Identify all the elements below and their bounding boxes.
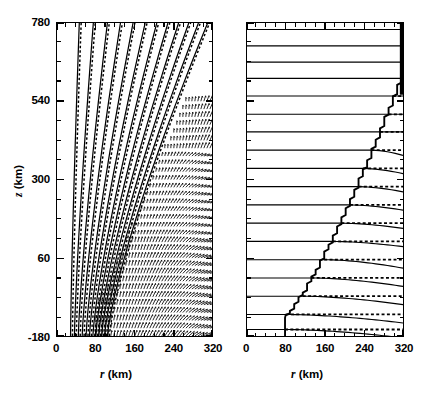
- left-x-tick-label: 320: [195, 342, 231, 355]
- left-x-minor-tick: [65, 333, 66, 337]
- left-y-minor-tick: [57, 317, 61, 318]
- right-x-major-tick-top: [285, 23, 287, 30]
- right-x-minor-tick-top: [255, 23, 256, 27]
- right-x-minor-tick-top: [315, 23, 316, 27]
- left-y-minor-tick-right: [209, 277, 213, 278]
- left-x-minor-tick: [163, 333, 164, 337]
- right-x-minor-tick-top: [265, 23, 266, 27]
- left-x-major-tick-top: [134, 23, 136, 30]
- left-x-minor-tick-top: [75, 23, 76, 27]
- right-y-minor-tick-right: [400, 120, 404, 121]
- contour-lines: [71, 23, 210, 336]
- left-y-major-tick: [57, 23, 64, 25]
- right-x-minor-tick: [334, 333, 335, 337]
- y-tick-label: 780: [12, 16, 50, 29]
- right-x-minor-tick: [265, 333, 266, 337]
- right-x-minor-tick-top: [384, 23, 385, 27]
- right-y-minor-tick: [247, 159, 251, 160]
- contour-solid: [247, 314, 403, 322]
- right-y-minor-tick-right: [400, 317, 404, 318]
- right-y-major-tick: [247, 23, 254, 25]
- contour-solid: [247, 296, 403, 304]
- right-x-minor-tick-top: [374, 23, 375, 27]
- right-y-minor-tick: [247, 297, 251, 298]
- right-y-minor-tick: [247, 120, 251, 121]
- left-y-minor-tick-right: [209, 159, 213, 160]
- right-x-minor-tick: [374, 333, 375, 337]
- left-x-major-tick: [173, 330, 175, 337]
- left-panel: [56, 22, 213, 337]
- right-x-tick-label: 320: [386, 342, 422, 355]
- right-y-minor-tick-right: [400, 297, 404, 298]
- right-panel-plot: [247, 23, 403, 336]
- right-x-tick-label: 0: [228, 342, 264, 355]
- left-x-minor-tick: [193, 333, 194, 337]
- left-x-major-tick: [134, 330, 136, 337]
- contour-solid: [247, 260, 403, 268]
- left-y-major-tick-right: [206, 179, 213, 181]
- left-y-minor-tick: [57, 277, 61, 278]
- x-axis-title-right: r (km): [291, 368, 323, 380]
- left-x-tick-label: 0: [38, 342, 74, 355]
- left-x-tick-label: 240: [156, 342, 192, 355]
- right-y-major-tick-right: [397, 258, 404, 260]
- left-y-minor-tick: [57, 41, 61, 42]
- left-y-major-tick: [57, 100, 64, 102]
- right-y-minor-tick-right: [400, 277, 404, 278]
- left-x-tick-label: 160: [117, 342, 153, 355]
- right-y-major-tick-right: [397, 335, 404, 337]
- x-axis-right-symbol: r: [291, 368, 295, 380]
- right-y-minor-tick-right: [400, 238, 404, 239]
- left-y-minor-tick-right: [209, 61, 213, 62]
- left-x-major-tick: [95, 330, 97, 337]
- right-x-minor-tick-top: [354, 23, 355, 27]
- right-y-major-tick-right: [397, 23, 404, 25]
- left-x-minor-tick-top: [183, 23, 184, 27]
- right-x-major-tick: [364, 330, 366, 337]
- right-y-major-tick-right: [397, 179, 404, 181]
- left-y-major-tick-right: [206, 335, 213, 337]
- left-x-minor-tick: [124, 333, 125, 337]
- left-y-minor-tick: [57, 199, 61, 200]
- left-panel-plot: [57, 23, 212, 336]
- left-x-minor-tick-top: [114, 23, 115, 27]
- left-y-major-tick-right: [206, 258, 213, 260]
- left-y-minor-tick: [57, 159, 61, 160]
- right-y-minor-tick: [247, 238, 251, 239]
- right-x-minor-tick: [255, 333, 256, 337]
- left-y-minor-tick-right: [209, 41, 213, 42]
- left-x-minor-tick: [203, 333, 204, 337]
- right-panel: [246, 22, 404, 337]
- left-y-minor-tick: [57, 238, 61, 239]
- y-axis-symbol: z: [12, 193, 24, 197]
- left-y-major-tick: [57, 258, 64, 260]
- left-y-minor-tick-right: [209, 140, 213, 141]
- right-y-minor-tick-right: [400, 41, 404, 42]
- right-y-minor-tick: [247, 199, 251, 200]
- left-y-minor-tick: [57, 140, 61, 141]
- contour-solid: [107, 23, 207, 336]
- right-x-minor-tick: [295, 333, 296, 337]
- right-y-minor-tick-right: [400, 80, 404, 81]
- left-x-minor-tick: [75, 333, 76, 337]
- left-x-minor-tick-top: [163, 23, 164, 27]
- left-y-minor-tick-right: [209, 218, 213, 219]
- y-tick-label: 540: [12, 94, 50, 107]
- x-axis-left-symbol: r: [100, 368, 104, 380]
- right-y-major-tick: [247, 258, 254, 260]
- left-y-minor-tick: [57, 120, 61, 121]
- left-x-minor-tick-top: [193, 23, 194, 27]
- left-y-minor-tick: [57, 61, 61, 62]
- left-y-minor-tick-right: [209, 238, 213, 239]
- right-y-minor-tick: [247, 317, 251, 318]
- right-y-minor-tick-right: [400, 218, 404, 219]
- right-x-tick-label: 240: [347, 342, 383, 355]
- left-x-minor-tick-top: [124, 23, 125, 27]
- y-tick-label: -180: [12, 331, 50, 344]
- right-y-minor-tick-right: [400, 199, 404, 200]
- left-x-minor-tick-top: [154, 23, 155, 27]
- right-x-major-tick-top: [324, 23, 326, 30]
- left-x-tick-label: 80: [77, 342, 113, 355]
- right-x-tick-label: 80: [268, 342, 304, 355]
- y-tick-label: 60: [12, 252, 50, 265]
